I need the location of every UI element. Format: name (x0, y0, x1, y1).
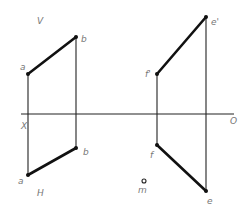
point-f (155, 143, 159, 147)
label-e: e (207, 196, 213, 206)
label-a: a (18, 176, 24, 186)
plane-label-h: H (37, 188, 44, 198)
point-a (26, 173, 30, 177)
label-b: b (83, 147, 89, 157)
axis-label-o: O (230, 116, 237, 126)
axis-label-x: X (20, 121, 28, 131)
segment-f-e (157, 145, 206, 191)
point-f-prime (155, 72, 159, 76)
segment-f-prime-e-prime (157, 17, 206, 74)
point-a-prime (26, 72, 30, 76)
label-a-prime: a (20, 62, 26, 72)
label-e-prime: e' (211, 17, 219, 27)
label-b-prime: b (81, 34, 87, 44)
plane-label-v: V (37, 16, 44, 26)
segment-a-b (28, 148, 76, 175)
point-b (74, 146, 78, 150)
point-e (204, 189, 208, 193)
point-b-prime (74, 35, 78, 39)
projection-diagram: V H X O a b a b f' e' f e m (0, 0, 251, 221)
label-f-prime: f' (145, 69, 151, 79)
point-e-prime (204, 15, 208, 19)
segment-a-prime-b-prime (28, 37, 76, 74)
label-m: m (138, 185, 147, 195)
point-m (142, 179, 146, 183)
label-f: f (150, 150, 155, 160)
